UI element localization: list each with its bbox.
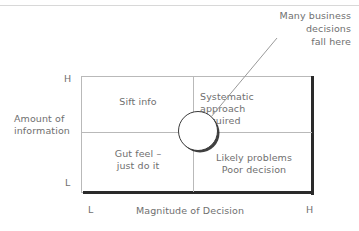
y-axis-title: Amount of information <box>14 113 78 137</box>
page-edge-line <box>0 5 359 6</box>
x-axis-title: Magnitude of Decision <box>110 205 270 217</box>
matrix-right-shadow <box>311 76 314 195</box>
quadrant-label-bottom-right: Likely problems Poor decision <box>196 152 312 176</box>
x-axis-tick-high: H <box>306 204 313 215</box>
quadrant-label-bottom-left: Gut feel – just do it <box>86 148 190 172</box>
matrix-bottom-shadow <box>83 191 314 194</box>
highlight-circle-marker <box>178 111 218 151</box>
y-axis-tick-low: L <box>65 177 70 188</box>
y-axis-tick-high: H <box>64 73 71 84</box>
x-axis-tick-low: L <box>88 204 93 215</box>
quadrant-label-top-left: Sift info <box>86 96 190 108</box>
diagram-canvas: Sift info Systematic approach required G… <box>0 0 359 231</box>
callout-annotation: Many business decisions fall here <box>219 9 351 48</box>
